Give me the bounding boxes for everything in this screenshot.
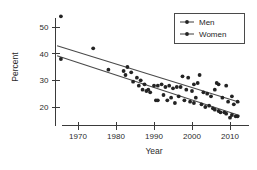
data-point-women bbox=[59, 57, 63, 61]
data-point-women bbox=[219, 110, 223, 114]
data-point-men bbox=[217, 82, 221, 86]
data-point-women bbox=[200, 102, 204, 106]
x-tick-label: 1990 bbox=[145, 132, 163, 141]
data-point-men bbox=[205, 92, 209, 96]
data-point-men bbox=[167, 84, 171, 88]
data-point-women bbox=[169, 96, 173, 100]
data-point-women bbox=[194, 96, 198, 100]
data-point-women bbox=[173, 101, 177, 105]
data-point-women bbox=[230, 113, 234, 117]
data-point-men bbox=[156, 84, 160, 88]
data-point-women bbox=[156, 98, 160, 102]
data-point-women bbox=[213, 108, 217, 112]
data-point-men bbox=[139, 78, 143, 82]
data-point-men bbox=[230, 94, 234, 98]
data-point-women bbox=[141, 88, 145, 92]
y-tick-label: 20 bbox=[40, 103, 49, 112]
data-point-women bbox=[107, 68, 111, 72]
data-point-men bbox=[236, 100, 240, 104]
data-point-men bbox=[164, 85, 168, 89]
y-tick-label: 30 bbox=[40, 76, 49, 85]
data-point-women bbox=[137, 84, 141, 88]
data-point-women bbox=[188, 100, 192, 104]
data-point-men bbox=[171, 86, 175, 90]
trend-line-men bbox=[57, 46, 239, 103]
data-point-women bbox=[207, 104, 211, 108]
data-point-men bbox=[209, 94, 213, 98]
legend-label-women: Women bbox=[199, 30, 226, 39]
data-point-men bbox=[232, 102, 236, 106]
data-point-men bbox=[59, 14, 63, 18]
data-point-men bbox=[129, 70, 133, 74]
data-point-men bbox=[202, 90, 206, 94]
data-point-women bbox=[131, 80, 135, 84]
data-point-men bbox=[192, 82, 196, 86]
x-tick-label: 2000 bbox=[183, 132, 201, 141]
data-point-women bbox=[148, 90, 152, 94]
data-point-men bbox=[126, 65, 130, 69]
data-point-men bbox=[152, 84, 156, 88]
data-point-men bbox=[224, 84, 228, 88]
data-point-men bbox=[190, 89, 194, 93]
data-point-men bbox=[143, 82, 147, 86]
data-point-men bbox=[198, 73, 202, 77]
trend-lines bbox=[57, 46, 239, 116]
chart-canvas: 2030405019701980199020002010YearPercent … bbox=[0, 0, 257, 170]
data-point-men bbox=[179, 85, 183, 89]
data-point-men bbox=[221, 96, 225, 100]
legend-marker-men bbox=[185, 20, 189, 24]
data-point-men bbox=[184, 88, 188, 92]
data-point-women bbox=[192, 101, 196, 105]
x-tick-label: 2010 bbox=[221, 132, 239, 141]
data-point-men bbox=[196, 81, 200, 85]
data-point-women bbox=[236, 114, 240, 118]
data-point-men bbox=[213, 88, 217, 92]
y-tick-label: 50 bbox=[40, 23, 49, 32]
data-point-women bbox=[183, 98, 187, 102]
x-tick-label: 1970 bbox=[69, 132, 87, 141]
data-point-women bbox=[145, 89, 149, 93]
data-point-men bbox=[160, 82, 164, 86]
data-point-women bbox=[224, 112, 228, 116]
data-point-women bbox=[122, 69, 126, 73]
x-tick-label: 1980 bbox=[107, 132, 125, 141]
legend-marker-women bbox=[185, 32, 189, 36]
data-point-women bbox=[177, 94, 181, 98]
scatter-chart: 2030405019701980199020002010YearPercent … bbox=[0, 0, 257, 170]
data-point-women bbox=[203, 105, 207, 109]
legend-label-men: Men bbox=[199, 18, 215, 27]
data-point-men bbox=[135, 76, 139, 80]
data-point-women bbox=[124, 73, 128, 77]
data-point-men bbox=[226, 100, 230, 104]
chart-legend: MenWomen bbox=[174, 13, 244, 43]
y-axis-title: Percent bbox=[10, 52, 20, 82]
data-point-men bbox=[91, 46, 95, 50]
data-point-men bbox=[181, 74, 185, 78]
data-point-men bbox=[175, 85, 179, 89]
y-tick-label: 40 bbox=[40, 50, 49, 59]
trend-line-women bbox=[57, 56, 239, 116]
x-axis-title: Year bbox=[145, 146, 162, 156]
data-point-men bbox=[186, 76, 190, 80]
data-point-women bbox=[162, 93, 166, 97]
data-point-women bbox=[165, 98, 169, 102]
